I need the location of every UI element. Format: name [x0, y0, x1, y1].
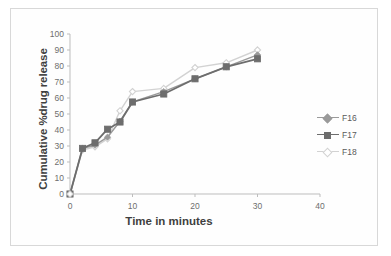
series-f18: [70, 47, 261, 194]
legend-marker-icon: [323, 147, 333, 157]
legend-label: F17: [342, 130, 357, 140]
y-tick-label: 60: [42, 93, 64, 103]
y-tick-label: 70: [42, 77, 64, 87]
y-tick-label: 90: [42, 45, 64, 55]
legend-label: F18: [342, 147, 357, 157]
data-point-marker: [254, 56, 260, 62]
x-tick-label: 20: [184, 201, 206, 211]
y-tick-label: 100: [42, 29, 64, 39]
legend-marker-icon: [323, 113, 333, 123]
y-tick-label: 40: [42, 125, 64, 135]
series-line: [70, 55, 258, 194]
chart-legend: F16F17F18: [317, 109, 377, 160]
legend-label: F16: [342, 113, 357, 123]
chart-figure: Cumulative %drug release Time in minutes…: [10, 8, 378, 246]
data-point-marker: [129, 99, 135, 105]
y-tick-label: 50: [42, 109, 64, 119]
legend-marker-icon: [324, 132, 331, 139]
x-tick-label: 10: [122, 201, 144, 211]
y-tick-label: 0: [42, 189, 64, 199]
data-point-marker: [117, 119, 123, 125]
y-tick-label: 80: [42, 61, 64, 71]
legend-key-icon: [317, 130, 339, 140]
y-tick-label: 20: [42, 157, 64, 167]
legend-item-f16[interactable]: F16: [317, 109, 377, 126]
origin-markers: [67, 191, 73, 197]
x-tick-label: 0: [59, 201, 81, 211]
data-point-marker: [223, 64, 229, 70]
x-tick-label: 30: [247, 201, 269, 211]
series-f17: [70, 56, 261, 194]
x-tick-label: 40: [309, 201, 331, 211]
legend-item-f18[interactable]: F18: [317, 143, 377, 160]
legend-key-icon: [317, 147, 339, 157]
data-point-marker: [79, 145, 85, 151]
y-tick-label: 30: [42, 141, 64, 151]
x-axis-title: Time in minutes: [69, 215, 269, 227]
y-tick-label: 10: [42, 173, 64, 183]
series-line: [70, 59, 258, 194]
plot-area: Cumulative %drug release Time in minutes…: [11, 9, 379, 247]
data-point-marker: [161, 91, 167, 97]
data-point-marker: [192, 76, 198, 82]
series-f16: [70, 52, 261, 194]
data-point-marker: [104, 126, 110, 132]
data-point-marker: [92, 140, 98, 146]
legend-key-icon: [317, 113, 339, 123]
legend-item-f17[interactable]: F17: [317, 126, 377, 143]
series-line: [70, 50, 258, 194]
